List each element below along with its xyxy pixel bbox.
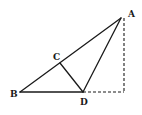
segment-ad xyxy=(83,18,121,92)
geometry-figure: A B C D xyxy=(0,0,142,115)
point-label-a: A xyxy=(127,9,136,19)
point-label-b: B xyxy=(10,89,18,99)
point-label-c: C xyxy=(53,52,60,62)
segment-cd xyxy=(60,63,83,92)
segment-ab xyxy=(20,18,121,92)
point-label-d: D xyxy=(80,97,88,107)
